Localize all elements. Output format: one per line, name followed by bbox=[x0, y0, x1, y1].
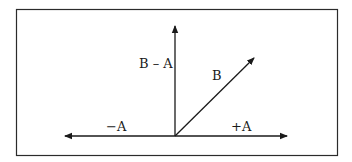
vector-label-b: B bbox=[212, 68, 222, 83]
labels-group: B – AB−A+A bbox=[106, 56, 252, 134]
vector-diagram: B – AB−A+A bbox=[0, 0, 352, 162]
vector-label-plus-a: +A bbox=[231, 119, 252, 134]
vector-label-b-minus-a: B – A bbox=[139, 56, 173, 71]
vector-label-minus-a: −A bbox=[106, 119, 127, 134]
vectors-group bbox=[65, 26, 287, 136]
diagram-canvas: B – AB−A+A bbox=[0, 0, 352, 162]
